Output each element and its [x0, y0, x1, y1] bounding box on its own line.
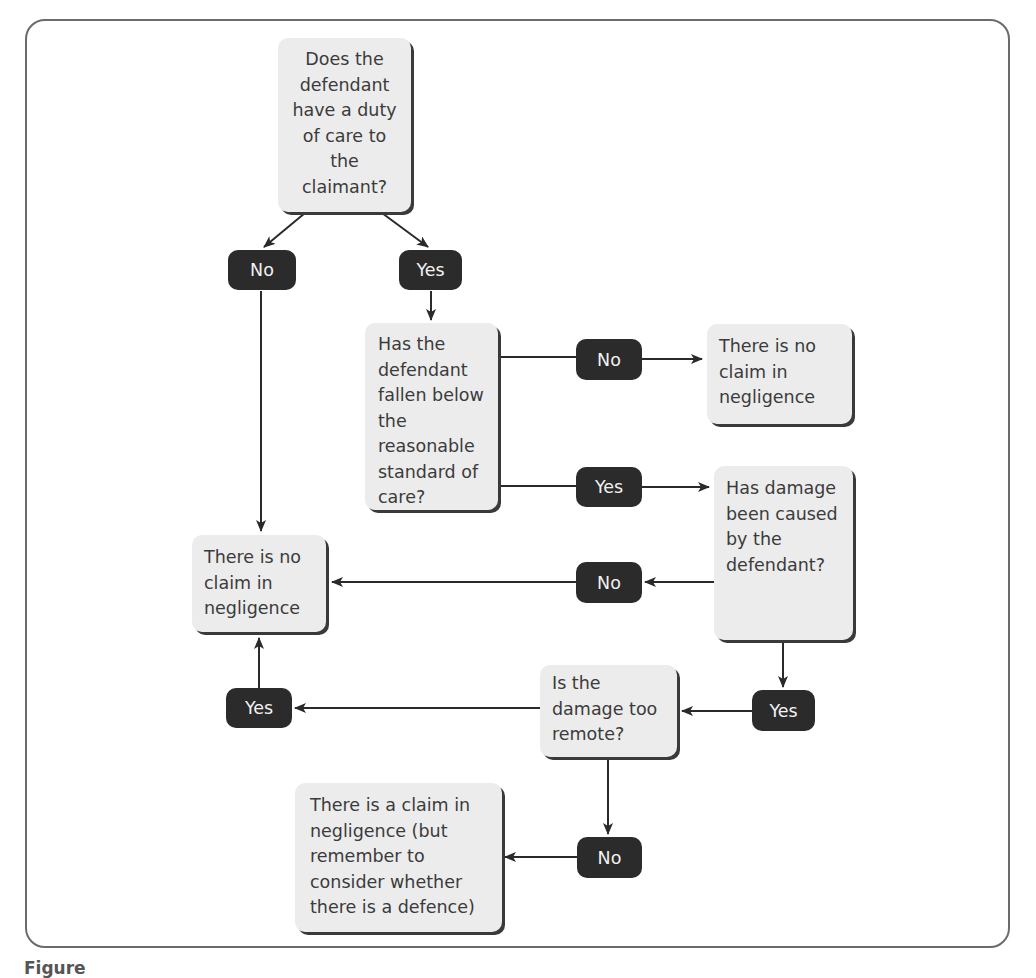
arrow-q1-no [264, 213, 305, 247]
figure-caption: Figure [24, 958, 86, 978]
arrow-q1-yes [382, 213, 428, 247]
outcome-no-claim-left: There is no claim in negligence [192, 535, 326, 632]
question-causation: Has damage been caused by the defendant? [714, 466, 853, 640]
answer-q3-no: No [576, 562, 642, 603]
question-duty-of-care: Does the defendant have a duty of care t… [278, 38, 411, 212]
outcome-claim: There is a claim in negligence (but reme… [295, 783, 502, 932]
answer-q4-no: No [577, 837, 642, 878]
answer-q4-yes: Yes [226, 688, 292, 728]
question-remoteness: Is the damage too remote? [540, 665, 677, 757]
answer-q2-yes: Yes [576, 467, 642, 507]
answer-q3-yes: Yes [752, 690, 815, 731]
answer-q1-no: No [228, 250, 296, 290]
outcome-no-claim-right: There is no claim in negligence [707, 324, 852, 424]
answer-q2-no: No [576, 339, 642, 380]
answer-q1-yes: Yes [399, 250, 462, 290]
question-breach: Has the defendant fallen below the reaso… [365, 323, 498, 510]
